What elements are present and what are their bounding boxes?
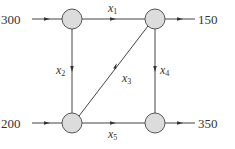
arrow-icon [44, 17, 50, 21]
edge-label: x4 [159, 63, 169, 78]
node-top-left [62, 9, 82, 29]
edge-x4: x4 [153, 29, 169, 113]
inflow-300: 300 [1, 12, 62, 27]
edge-x3: x3 [79, 26, 148, 116]
inflow-label: 300 [1, 12, 21, 27]
edge-label: x3 [121, 71, 131, 86]
arrow-icon [113, 63, 116, 69]
arrow-icon [44, 121, 50, 125]
node-bottom-right [145, 113, 165, 133]
arrow-icon [177, 121, 183, 125]
inflow-label: 200 [1, 116, 21, 131]
arrow-icon [70, 66, 74, 72]
node-top-right [145, 9, 165, 29]
arrow-icon [177, 17, 183, 21]
network-flow-diagram: 300 150 200 350 x1 x2 x3 x4 [0, 0, 235, 149]
outflow-label: 350 [198, 116, 218, 131]
outflow-150: 150 [165, 12, 218, 27]
arrow-icon [153, 66, 157, 72]
outflow-label: 150 [198, 12, 218, 27]
outflow-350: 350 [165, 116, 218, 131]
node-bottom-left [62, 113, 82, 133]
edge-label: x5 [107, 127, 117, 142]
arrow-icon [110, 121, 116, 125]
arrow-icon [110, 17, 116, 21]
edge-label: x2 [55, 63, 65, 78]
edge-x2: x2 [55, 29, 74, 113]
edge-x5: x5 [82, 121, 145, 142]
edge-x1: x1 [82, 1, 145, 21]
edge-label: x1 [107, 1, 117, 16]
inflow-200: 200 [1, 116, 62, 131]
